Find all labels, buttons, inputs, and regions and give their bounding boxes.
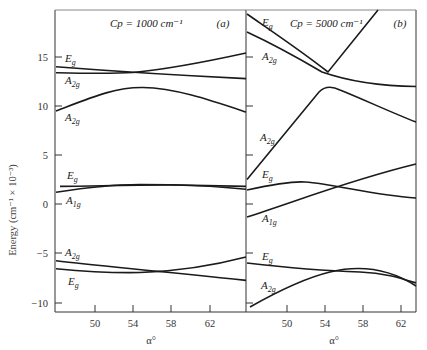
curve-b-a1g [247,164,416,217]
curve-a-a2g-mid [56,87,246,112]
x-tick-58-a: 58 [166,318,177,329]
x-tick-62-a: 62 [205,318,216,329]
label-b-a2g-mid: A2g [259,131,275,146]
panel-a-tag: (a) [217,17,230,30]
curve-b-a2g-mid [247,87,416,179]
panel-a-curves [56,53,246,280]
label-a-eg-low: Eg [67,275,79,290]
y-tick-minus5: −5 [37,248,48,259]
y-ticks-panel-b [246,57,253,303]
panel-a-title: Cp = 1000 cm⁻¹ [110,17,182,29]
x-ticks-panel-b: 50 54 58 62 α° [282,305,407,346]
label-a-a1g: A1g [65,194,81,209]
panel-a-frame [55,10,246,312]
label-b-a2g-low: A2g [260,279,276,294]
curve-a-eg-upper [56,53,246,73]
x-tick-62-b: 62 [396,318,407,329]
x-tick-58-b: 58 [358,318,369,329]
y-ticks-panel-a: 15 10 5 0 −5 −10 [32,52,62,309]
label-a-a2g-top: A2g [64,74,80,89]
label-b-a2g-top: A2g [261,50,277,65]
y-tick-15: 15 [38,52,49,63]
x-ticks-panel-a: 50 54 58 62 α° [90,305,216,346]
x-tick-54-a: 54 [128,318,139,329]
x-tick-50-b: 50 [282,318,293,329]
label-a-eg-top: Eg [64,52,76,67]
y-tick-5: 5 [43,150,48,161]
label-a-eg-mid: Eg [66,169,78,184]
label-a-a2g-mid: A2g [64,111,80,126]
label-b-eg-top: Eg [261,16,273,31]
x-tick-50-a: 50 [90,318,101,329]
panel-b-title: Cp = 5000 cm⁻¹ [290,17,362,29]
energy-level-figure: Energy (cm⁻¹ × 10⁻³) 15 10 5 0 −5 −10 [0,0,427,350]
y-tick-0: 0 [43,199,48,210]
panel-b-tag: (b) [394,17,407,30]
label-a-a2g-low: A2g [64,246,80,261]
y-tick-minus10: −10 [32,298,48,309]
label-b-a1g: A1g [261,212,277,227]
x-tick-54-b: 54 [320,318,331,329]
x-axis-label-b: α° [329,335,339,346]
label-b-eg-low: Eg [261,250,273,265]
panel-a-state-labels: Eg A2g A2g Eg A1g A2g Eg [64,52,81,290]
x-axis-label-a: α° [146,335,156,346]
y-axis-label: Energy (cm⁻¹ × 10⁻³) [7,164,19,256]
y-tick-10: 10 [38,101,49,112]
label-b-eg-mid: Eg [261,168,273,183]
curve-b-eg-mid [247,182,416,198]
